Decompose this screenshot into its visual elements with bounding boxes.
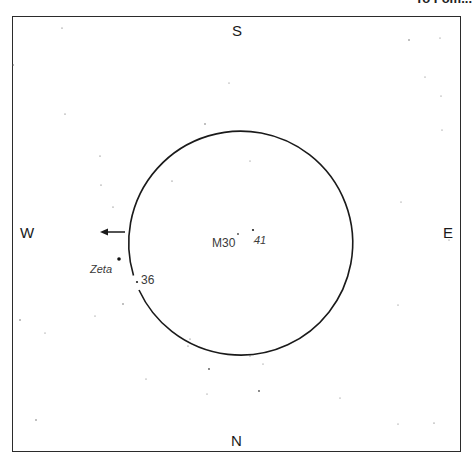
- compass-south-label: S: [232, 23, 242, 38]
- star-dot: [441, 96, 442, 97]
- star-dot: [440, 38, 441, 39]
- star-dot: [171, 180, 172, 181]
- star-dot: [401, 202, 402, 203]
- star-dot: [12, 64, 14, 66]
- compass-west-label: W: [20, 225, 34, 240]
- field-of-view-circle: [129, 131, 353, 355]
- compass-east-label: E: [443, 225, 453, 240]
- star-dot: [112, 206, 113, 207]
- star-dot: [442, 130, 443, 131]
- west-arrow-icon: [100, 229, 125, 236]
- star-dot: [263, 364, 264, 365]
- star-dot: [250, 161, 251, 162]
- star-dot: [19, 319, 20, 320]
- star-dot: [408, 39, 409, 40]
- star-dot: [189, 338, 190, 339]
- star-dot: [208, 368, 210, 370]
- star-dot: [95, 316, 96, 317]
- star-41-label: 41: [254, 235, 266, 246]
- zeta-label: Zeta: [90, 264, 112, 275]
- star-dot: [99, 155, 100, 156]
- star-dot: [229, 83, 230, 84]
- star-dot: [187, 345, 188, 346]
- star-dot: [398, 305, 399, 306]
- star-36-marker: [136, 281, 138, 283]
- compass-north-label: N: [231, 433, 242, 448]
- star-36-label: 36: [141, 274, 154, 286]
- star-dot: [61, 27, 62, 28]
- star-dot: [122, 303, 123, 304]
- star-dot: [204, 123, 205, 124]
- star-field: [0, 0, 472, 466]
- star-dot: [146, 379, 147, 380]
- star-dot: [45, 333, 46, 334]
- star-dot: [35, 419, 36, 420]
- star-dot: [250, 356, 251, 357]
- star-dot: [398, 424, 399, 425]
- m30-marker: [237, 233, 239, 235]
- star-dot: [258, 390, 260, 392]
- star-dot: [207, 394, 208, 395]
- star-dot: [64, 113, 65, 114]
- star-41-marker: [252, 229, 254, 231]
- background-stars: [12, 27, 449, 424]
- star-dot: [425, 77, 426, 78]
- star-dot: [100, 184, 101, 185]
- star-dot: [433, 422, 434, 423]
- zeta-star-marker: [117, 257, 121, 261]
- star-dot: [340, 398, 341, 399]
- m30-label: M30: [212, 237, 235, 249]
